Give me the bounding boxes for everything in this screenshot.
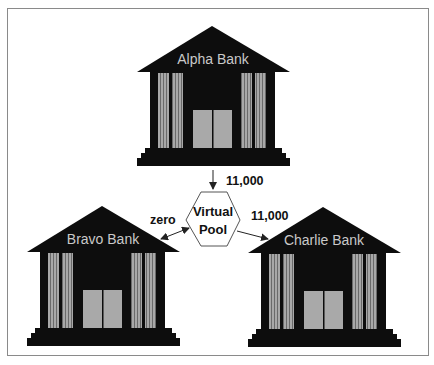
flow-charlie-amount: 11,000: [251, 209, 289, 223]
flow-alpha-amount: 11,000: [226, 174, 264, 188]
pool-label-line2: Pool: [199, 222, 227, 237]
hexagon-icon: [186, 192, 240, 246]
diagram-svg: Alpha Bank Bravo Bank Charlie Bank Virtu…: [0, 0, 434, 365]
arrow-bidirectional-icon: [161, 228, 189, 239]
arrow-right-icon: [237, 231, 268, 239]
bank-charlie-label: Charlie Bank: [284, 232, 365, 248]
bank-alpha: Alpha Bank: [137, 26, 290, 166]
bank-building-icon: [248, 207, 401, 347]
virtual-pool: Virtual Pool: [186, 192, 240, 246]
diagram-canvas: Alpha Bank Bravo Bank Charlie Bank Virtu…: [0, 0, 434, 365]
bank-bravo: Bravo Bank: [27, 206, 180, 346]
flow-bravo-amount: zero: [150, 213, 176, 227]
pool-label-line1: Virtual: [193, 204, 233, 219]
bank-alpha-label: Alpha Bank: [177, 51, 250, 67]
bank-building-icon: [137, 26, 290, 166]
bank-charlie: Charlie Bank: [248, 207, 401, 347]
bank-building-icon: [27, 206, 180, 346]
bank-bravo-label: Bravo Bank: [67, 231, 140, 247]
